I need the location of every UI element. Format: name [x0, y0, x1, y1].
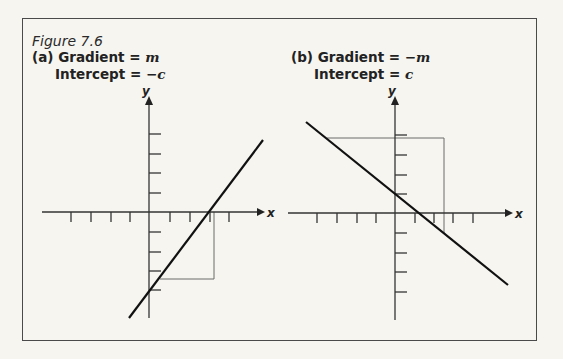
panel-b-y-label: y	[388, 84, 397, 98]
panel-b-graph: x y	[288, 84, 524, 320]
panel-a-x-arrow-icon	[257, 208, 265, 216]
panel-b-x-arrow-icon	[505, 209, 513, 217]
panel-a-graph: x y	[42, 84, 276, 318]
panel-b-x-label: x	[514, 207, 524, 221]
graphs-canvas: x y	[0, 0, 563, 359]
panel-a-x-label: x	[266, 206, 276, 220]
panel-b-line	[306, 122, 508, 285]
panel-a-y-label: y	[142, 84, 151, 98]
panel-a-gradient-guide	[160, 212, 214, 279]
